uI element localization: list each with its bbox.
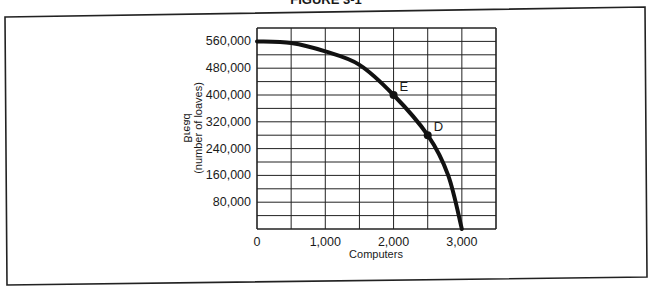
y-tick-label: 400,000 (206, 88, 251, 102)
x-axis-ticks: 01,0002,0003,000 (254, 235, 478, 249)
y-tick-label: 160,000 (206, 168, 251, 182)
x-tick-label: 0 (254, 235, 261, 249)
y-axis-ticks: 80,000160,000240,000320,000400,000480,00… (206, 34, 251, 209)
y-axis-title: Bread (number of loaves) (182, 82, 204, 174)
point-d-label: D (434, 119, 443, 134)
x-tick-label: 1,000 (310, 235, 341, 249)
y-tick-label: 240,000 (206, 142, 251, 156)
point-e-marker (390, 91, 398, 99)
figure-title: FIGURE 3-1 (290, 0, 362, 7)
svg-text:(number of loaves): (number of loaves) (192, 82, 204, 174)
y-tick-label: 560,000 (206, 34, 251, 48)
x-axis-title: Computers (349, 248, 403, 260)
y-tick-label: 80,000 (213, 195, 251, 209)
point-e-label: E (400, 79, 409, 94)
ppf-chart: FIGURE 3-1 80,000160,000240,000320,00040… (0, 0, 652, 287)
chart-grid (257, 28, 496, 229)
x-tick-label: 3,000 (446, 235, 477, 249)
point-d-marker (424, 131, 432, 139)
y-tick-label: 480,000 (206, 61, 251, 75)
curve-points: ED (390, 79, 444, 139)
y-tick-label: 320,000 (206, 115, 251, 129)
x-tick-label: 2,000 (378, 235, 409, 249)
